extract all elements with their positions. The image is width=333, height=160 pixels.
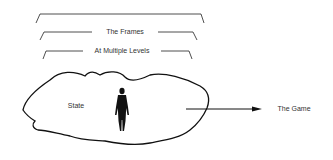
state-label: State — [68, 102, 84, 109]
levels-label: At Multiple Levels — [95, 47, 150, 54]
arrow-head — [252, 107, 262, 112]
frames-label: The Frames — [106, 28, 144, 35]
person-icon — [115, 88, 129, 131]
game-label: The Game — [277, 105, 310, 112]
diagram-canvas — [0, 0, 333, 160]
bracket-outer — [36, 14, 204, 23]
